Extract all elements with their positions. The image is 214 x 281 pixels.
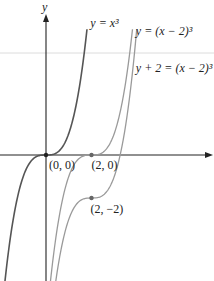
y-axis-arrow-icon: [43, 14, 49, 22]
y-axis-label: y: [41, 0, 48, 14]
point-label: (2, 0): [92, 158, 118, 172]
point-marker: [89, 153, 93, 157]
cubic-translation-chart: y (0, 0)(2, 0)(2, −2) y = x³y = (x − 2)³…: [0, 0, 214, 281]
point-marker: [44, 153, 48, 157]
curve-labels: y = x³y = (x − 2)³y + 2 = (x − 2)³: [89, 16, 212, 75]
curve-label-0: y = x³: [89, 16, 119, 30]
point-label: (2, −2): [91, 202, 124, 216]
x-axis-arrow-icon: [205, 152, 213, 158]
point-label: (0, 0): [49, 158, 75, 172]
curve-label-2: y + 2 = (x − 2)³: [135, 61, 213, 75]
axes: y: [0, 0, 213, 281]
point-marker: [89, 196, 93, 200]
curve-label-1: y = (x − 2)³: [135, 24, 193, 38]
